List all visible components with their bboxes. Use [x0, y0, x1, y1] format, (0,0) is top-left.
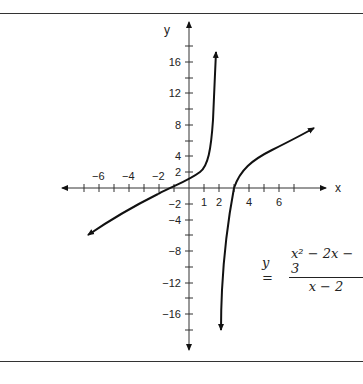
- y-tick-label: 8: [175, 119, 181, 131]
- x-tick-label: −4: [122, 170, 135, 182]
- x-tick-label: −2: [152, 170, 165, 182]
- x-tick-label: 2: [216, 196, 222, 208]
- y-tick-label: −8: [168, 245, 181, 257]
- y-axis-label: y: [164, 23, 170, 37]
- equation-denominator: x − 2: [309, 278, 344, 294]
- y-tick-label: −2: [168, 198, 181, 210]
- x-axis-label: x: [335, 181, 341, 195]
- x-tick-label: 4: [246, 196, 252, 208]
- y-tick-label: −12: [162, 277, 181, 289]
- x-tick-label: −6: [92, 170, 105, 182]
- y-tick-label: −16: [162, 308, 181, 320]
- equation-lhs: y =: [262, 255, 283, 285]
- graph: −6 −4 −2 1 2 4 6 16 12 8 4 2 −2 −4 −8 −1…: [0, 0, 363, 384]
- y-tick-label: 12: [169, 87, 181, 99]
- y-tick-label: 16: [169, 56, 181, 68]
- curve-right-branch: [234, 128, 314, 188]
- equation-label: y = x² − 2x − 3 x − 2: [262, 246, 363, 294]
- y-tick-label: −4: [168, 214, 181, 226]
- y-tick-label: 2: [175, 166, 181, 178]
- x-tick-label: 1: [201, 196, 207, 208]
- y-tick-label: 4: [175, 150, 181, 162]
- equation-numerator: x² − 2x − 3: [289, 246, 363, 278]
- equation-fraction: x² − 2x − 3 x − 2: [289, 246, 363, 294]
- x-tick-label: 6: [276, 196, 282, 208]
- curve-left-branch: [158, 52, 216, 194]
